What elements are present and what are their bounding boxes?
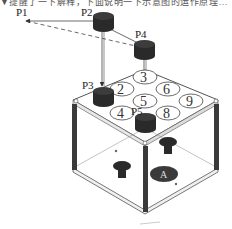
key-8: 8 [163, 106, 170, 121]
inner-knob-left [113, 161, 131, 178]
cap-p4 [134, 40, 155, 60]
label-p3: P3 [82, 79, 94, 91]
key-6: 6 [163, 82, 170, 97]
figure-caption: ▼提醒了一下解释，下面说明一下示意图的运作原理… [0, 0, 228, 8]
post-front [143, 146, 148, 212]
diagram-canvas: ▼提醒了一下解释，下面说明一下示意图的运作原理… [0, 0, 232, 229]
base-symbol: A [160, 169, 168, 180]
cap-p3 [93, 87, 114, 107]
post-right [214, 104, 219, 170]
keypad-box-diagram: A 3 2 6 5 9 4 8 [0, 0, 232, 229]
key-3: 3 [140, 70, 147, 85]
key-9: 9 [186, 94, 193, 109]
post-left [72, 104, 77, 170]
cap-p2 [93, 12, 114, 32]
label-p5: P5 [131, 105, 143, 117]
label-p4: P4 [135, 28, 147, 40]
key-2: 2 [117, 82, 124, 97]
key-4: 4 [117, 106, 124, 121]
path-p4-p1-dashed [26, 21, 140, 47]
inner-knob-right [159, 137, 177, 154]
